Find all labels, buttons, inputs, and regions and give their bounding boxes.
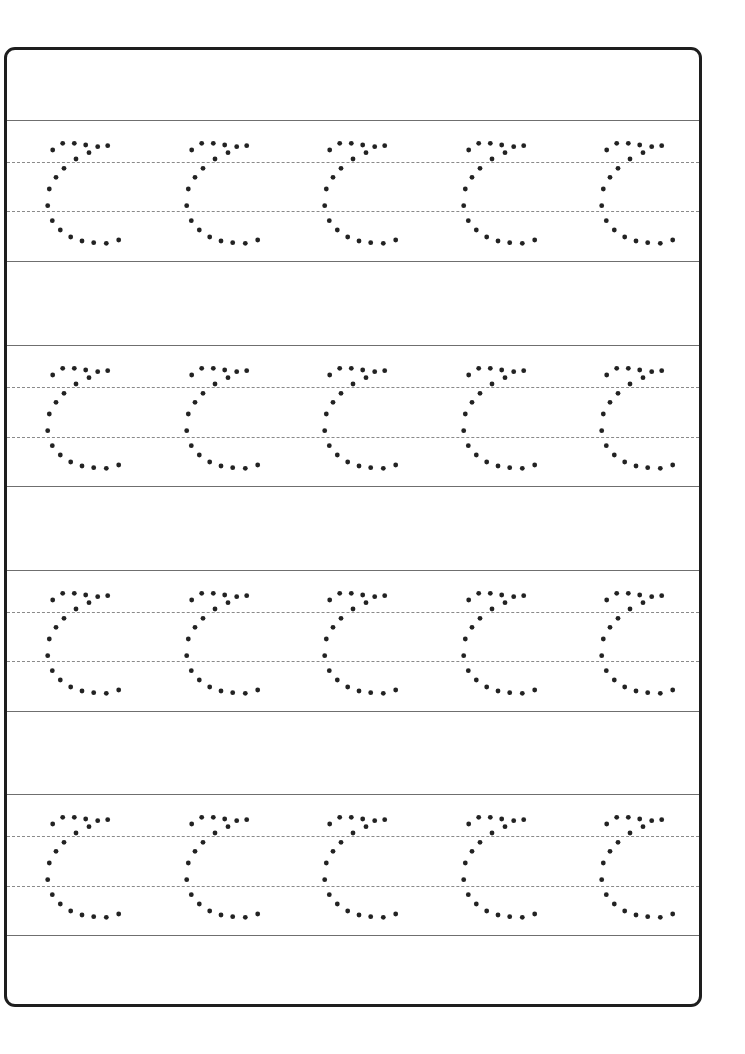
traceable-letter-c	[40, 135, 130, 250]
traceable-letter-c	[317, 360, 407, 475]
traceable-letter-c	[456, 585, 546, 700]
traceable-letter-c	[594, 585, 684, 700]
traceable-letter-c	[179, 360, 269, 475]
top-guide-line	[7, 794, 699, 795]
traceable-letter-c	[594, 135, 684, 250]
top-guide-line	[7, 570, 699, 571]
top-guide-line	[7, 120, 699, 121]
baseline	[7, 486, 699, 487]
traceable-letter-c	[456, 809, 546, 924]
traceable-letter-c	[317, 809, 407, 924]
traceable-letter-c	[594, 809, 684, 924]
traceable-letter-c	[456, 360, 546, 475]
traceable-letter-c	[317, 135, 407, 250]
traceable-letter-c	[40, 360, 130, 475]
baseline	[7, 935, 699, 936]
baseline	[7, 261, 699, 262]
top-guide-line	[7, 345, 699, 346]
worksheet-frame	[4, 47, 702, 1007]
traceable-letter-c	[317, 585, 407, 700]
traceable-letter-c	[594, 360, 684, 475]
traceable-letter-c	[179, 809, 269, 924]
traceable-letter-c	[40, 585, 130, 700]
traceable-letter-c	[179, 135, 269, 250]
traceable-letter-c	[179, 585, 269, 700]
baseline	[7, 711, 699, 712]
traceable-letter-c	[40, 809, 130, 924]
traceable-letter-c	[456, 135, 546, 250]
